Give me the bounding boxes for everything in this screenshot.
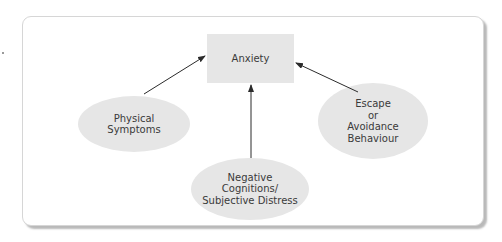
physical-symptoms-node-label: Physical Symptoms <box>78 96 190 152</box>
escape-avoidance-node-label: Escape or Avoidance Behaviour <box>318 83 428 159</box>
anxiety-node-label: Anxiety <box>207 34 294 83</box>
negative-cognitions-node-label: Negative Cognitions/ Subjective Distress <box>191 158 309 220</box>
arrow-physical-to-anxiety <box>144 56 205 94</box>
